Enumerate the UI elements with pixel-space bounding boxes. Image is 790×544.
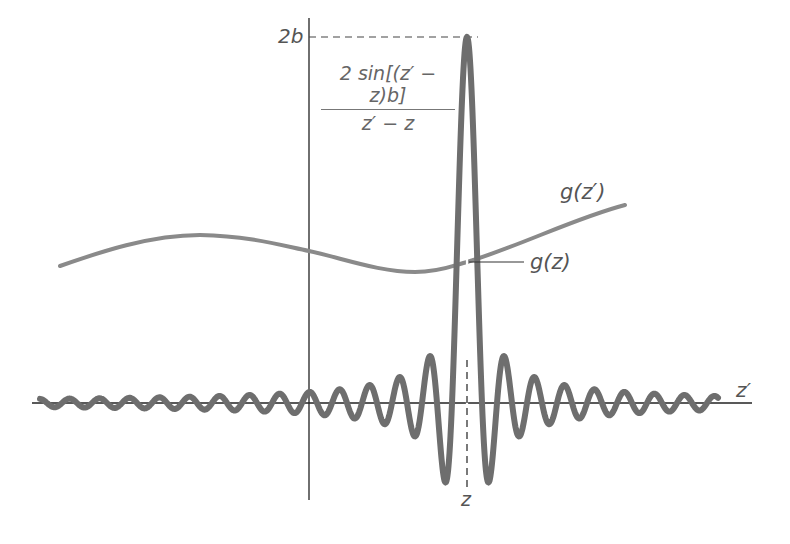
- peak-value-label: 2b: [278, 24, 303, 48]
- center-point-label: z: [461, 488, 471, 510]
- kernel-formula: 2 sin[(z′ − z)b] z′ − z: [321, 62, 455, 134]
- horizontal-axis-label: z′: [736, 378, 751, 402]
- smooth-function-label: g(z′): [560, 180, 606, 204]
- function-at-point-label: g(z): [530, 250, 571, 274]
- formula-numerator: 2 sin[(z′ − z)b]: [321, 62, 455, 110]
- formula-denominator: z′ − z: [321, 110, 455, 134]
